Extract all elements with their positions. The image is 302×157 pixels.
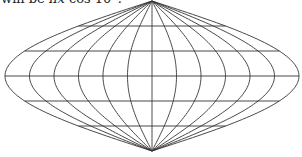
sinusoidal-graticule-diagram — [0, 0, 302, 157]
